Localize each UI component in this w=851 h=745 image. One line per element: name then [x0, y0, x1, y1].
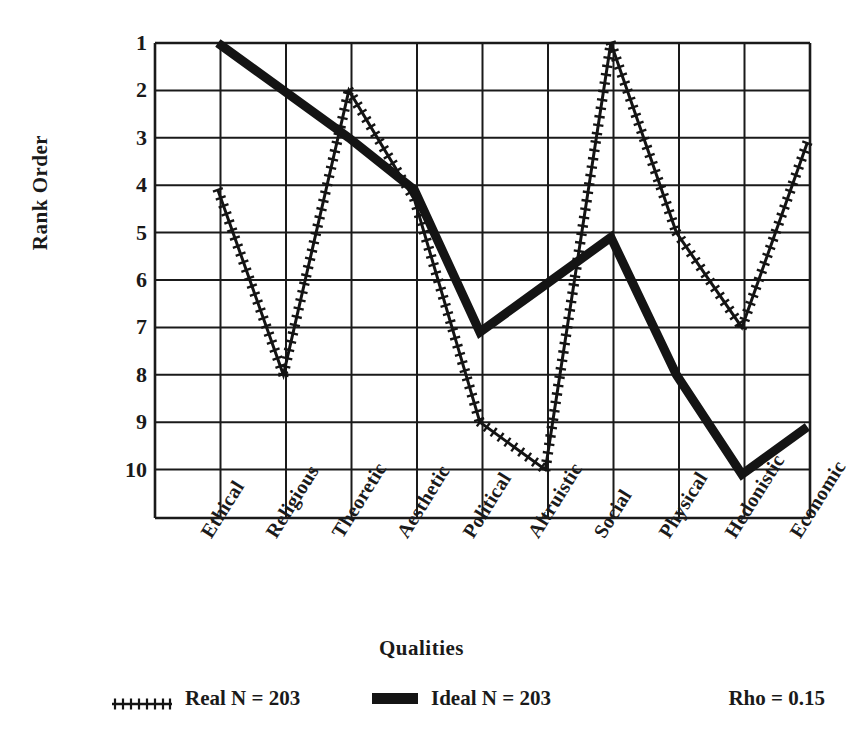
real-series-marker-icon	[112, 692, 172, 706]
ideal-series-marker-icon	[372, 693, 418, 704]
legend-item-real: Real N = 203	[112, 688, 300, 709]
x-axis-title: Qualities	[0, 636, 843, 661]
legend-label-ideal: Ideal N = 203	[431, 688, 551, 709]
legend-item-ideal: Ideal N = 203	[372, 688, 551, 709]
legend-label-real: Real N = 203	[185, 688, 300, 709]
rho-annotation: Rho = 0.15	[728, 686, 825, 711]
chart-legend: Real N = 203 Ideal N = 203 Rho = 0.15	[0, 686, 843, 726]
data-series	[213, 41, 812, 474]
